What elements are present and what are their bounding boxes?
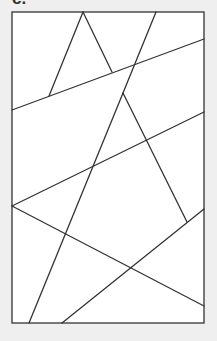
diagram-frame (12, 12, 204, 323)
line-diagram (0, 0, 217, 341)
